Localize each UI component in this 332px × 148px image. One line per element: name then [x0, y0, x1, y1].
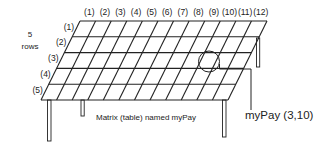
matrix-caption: Matrix (table) named myPay — [96, 113, 196, 122]
diagram-canvas: (1)(2)(3)(4)(5)(6)(7)(8)(9)(10)(11)(12) … — [0, 0, 332, 148]
leg-back-left — [81, 100, 84, 116]
grid-column-line — [88, 21, 127, 100]
rows-count-label: 5 — [28, 30, 33, 39]
column-label: (6) — [162, 7, 173, 17]
column-label: (9) — [209, 7, 220, 17]
grid-column-line — [41, 21, 80, 100]
column-label: (12) — [253, 7, 268, 17]
column-label: (8) — [193, 7, 204, 17]
grid-column-line — [135, 21, 174, 100]
matrix-grid — [41, 21, 267, 100]
grid-column-line — [103, 21, 142, 100]
grid-column-line — [181, 21, 220, 100]
column-label: (2) — [100, 7, 111, 17]
row-label: (2) — [56, 37, 67, 47]
column-label: (4) — [131, 7, 142, 17]
leg-front-right — [223, 100, 227, 137]
column-label: (11) — [238, 7, 253, 17]
row-label: (5) — [33, 85, 44, 95]
matrix-table-diagram: (1)(2)(3)(4)(5)(6)(7)(8)(9)(10)(11)(12) … — [0, 0, 332, 148]
column-label: (7) — [178, 7, 189, 17]
leg-front-left — [48, 100, 52, 141]
grid-column-line — [150, 21, 189, 100]
row-label: (4) — [40, 69, 51, 79]
row-label: (1) — [64, 22, 75, 32]
highlighted-cell-label: myPay (3,10) — [245, 109, 314, 121]
column-labels: (1)(2)(3)(4)(5)(6)(7)(8)(9)(10)(11)(12) — [84, 7, 268, 17]
column-label: (3) — [115, 7, 126, 17]
rows-word-label: rows — [22, 42, 39, 51]
column-label: (10) — [222, 7, 237, 17]
grid-column-line — [228, 21, 267, 100]
grid-column-line — [119, 21, 158, 100]
grid-column-line — [57, 21, 96, 100]
grid-column-line — [72, 21, 111, 100]
grid-column-line — [197, 21, 236, 100]
column-label: (5) — [146, 7, 157, 17]
column-label: (1) — [84, 7, 95, 17]
row-label: (3) — [48, 53, 59, 63]
grid-column-line — [212, 21, 251, 100]
